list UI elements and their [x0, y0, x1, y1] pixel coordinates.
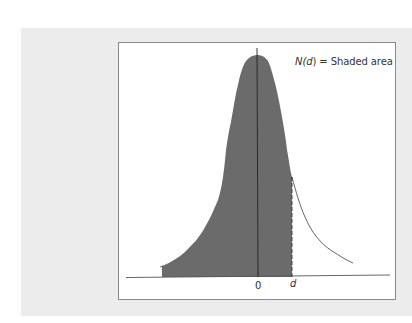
right-tail-curve	[292, 177, 353, 263]
bell-curve-plot	[0, 0, 412, 323]
tick-label-zero: 0	[255, 280, 261, 291]
annotation-text: ) = Shaded area	[312, 56, 392, 67]
annotation-n: N(	[295, 56, 306, 67]
tick-label-d: d	[290, 278, 296, 289]
shaded-area	[162, 55, 292, 277]
shaded-area-annotation: N(d) = Shaded area	[295, 56, 393, 67]
